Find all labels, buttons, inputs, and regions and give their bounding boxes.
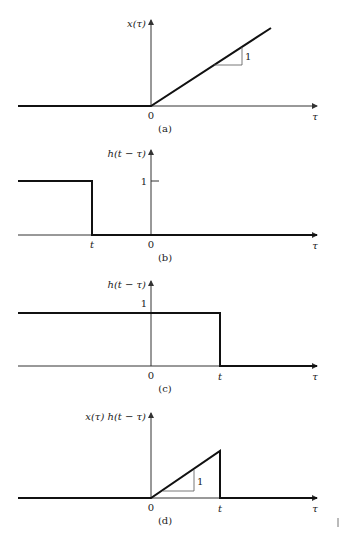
tau-label: τ <box>312 371 318 382</box>
origin-label: 0 <box>148 239 154 250</box>
ramp-signal <box>18 28 271 106</box>
slope-label: 1 <box>197 476 203 487</box>
y-axis-label: h(t − τ) <box>107 279 146 290</box>
tau-label: τ <box>312 240 318 251</box>
y-axis-label: h(t − τ) <box>107 148 146 159</box>
level-label: 1 <box>141 176 147 187</box>
tau-label: τ <box>312 111 318 122</box>
t-label: t <box>218 371 223 382</box>
convolution-figure: 1 x(τ) 0 τ (a) h(t − τ) 1 t 0 τ (b) h(t … <box>0 0 339 541</box>
slope-label: 1 <box>245 51 251 62</box>
panel-c: h(t − τ) 1 0 t τ (c) <box>18 279 318 394</box>
caption-a: (a) <box>158 123 172 134</box>
step-signal <box>18 181 317 235</box>
y-axis-label: x(τ) h(t − τ) <box>85 411 146 422</box>
t-label: t <box>90 239 95 250</box>
step-signal <box>18 313 317 366</box>
caption-c: (c) <box>158 383 172 394</box>
tau-label: τ <box>312 503 318 514</box>
origin-label: 0 <box>148 370 154 381</box>
caption-d: (d) <box>158 515 172 526</box>
origin-label: 0 <box>148 110 154 121</box>
level-label: 1 <box>141 298 147 309</box>
panel-b: h(t − τ) 1 t 0 τ (b) <box>18 148 318 263</box>
caption-b: (b) <box>158 252 172 263</box>
origin-label: 0 <box>148 502 154 513</box>
panel-a: 1 x(τ) 0 τ (a) <box>18 18 318 134</box>
panel-d: 1 x(τ) h(t − τ) 0 t τ (d) <box>18 411 318 526</box>
y-axis-label: x(τ) <box>127 18 146 29</box>
t-label: t <box>218 503 223 514</box>
